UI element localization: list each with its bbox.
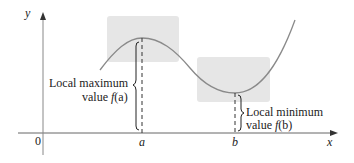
- min-label-line1: Local minimum: [246, 105, 324, 119]
- local-extrema-diagram: y x 0 a b Local maximum value f(a) Local…: [0, 0, 354, 163]
- tick-b-label: b: [232, 135, 238, 149]
- x-axis-label: x: [326, 135, 333, 149]
- max-highlight-box: [107, 16, 179, 62]
- max-label-line2: value f(a): [82, 90, 128, 104]
- max-label-line1: Local maximum: [49, 76, 129, 90]
- min-label-line2: value f(b): [246, 118, 292, 132]
- y-axis-label: y: [24, 6, 31, 20]
- origin-label: 0: [35, 134, 41, 148]
- y-axis-arrow-icon: [40, 12, 46, 20]
- min-highlight-box: [197, 57, 270, 102]
- tick-a-label: a: [139, 135, 145, 149]
